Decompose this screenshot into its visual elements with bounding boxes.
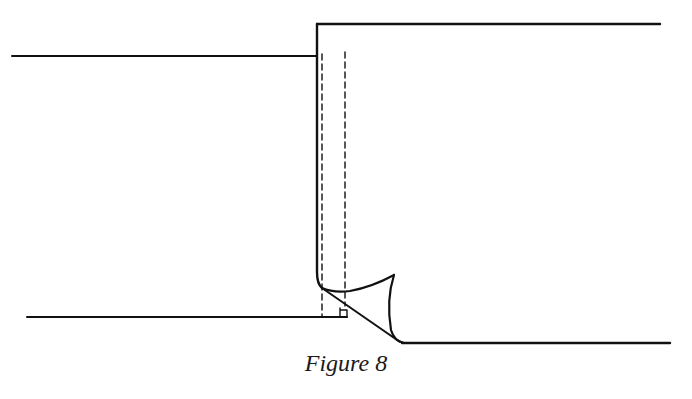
folded-corner-flap-top <box>322 275 394 292</box>
corner-notch <box>340 308 347 317</box>
fold-vertical-edge <box>317 24 322 288</box>
figure-caption: Figure 8 <box>0 350 692 377</box>
folded-corner-flap-side <box>389 275 404 343</box>
figure-diagram <box>0 0 692 399</box>
